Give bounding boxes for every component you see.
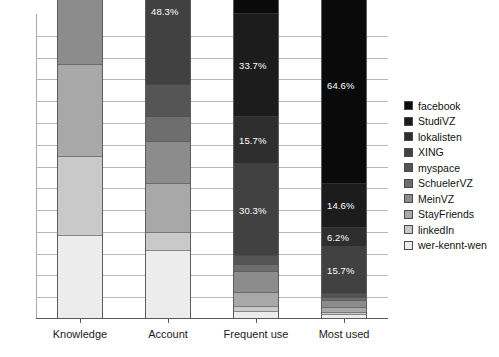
legend-item-schuelervz[interactable]: SchuelerVZ [404,176,499,192]
bar-segment[interactable] [58,0,102,65]
x-axis-tick [256,319,257,323]
legend-item-wer-kennt-wen[interactable]: wer-kennt-wen [404,238,499,254]
segment-value-label: 6.2% [327,231,349,242]
legend-swatch-icon [404,148,413,157]
bar-segment[interactable] [234,265,278,272]
bar-segment[interactable] [146,233,190,251]
bar-column-frequent-use[interactable]: 73.0%33.7%15.7%30.3% [233,0,279,319]
bar-segment[interactable] [146,85,190,117]
bar-segment[interactable] [234,272,278,293]
legend-item-meinvz[interactable]: MeinVZ [404,191,499,207]
bar-segment[interactable]: 6.2% [322,228,366,247]
x-axis-tick [168,319,169,323]
bar-segment[interactable]: 48.3% [146,0,190,85]
legend-swatch-icon [404,179,413,188]
bar-segment[interactable] [146,184,190,233]
legend-label: linkedIn [418,225,454,236]
legend-swatch-icon [404,194,413,203]
legend-label: facebook [418,101,461,112]
legend-swatch-icon [404,210,413,219]
legend-item-studivz[interactable]: StudiVZ [404,114,499,130]
legend-label: XING [418,147,444,158]
bar-segment[interactable]: 30.3% [234,164,278,256]
segment-value-label: 48.3% [151,6,178,17]
bar-segment[interactable] [58,157,102,236]
bar-segment[interactable] [322,301,366,308]
legend-label: StudiVZ [418,116,455,127]
legend: facebookStudiVZlokalistenXINGmyspaceSchu… [404,98,499,253]
bar-column-account[interactable]: 79.8%62.9%41.6%48.3% [145,0,191,319]
legend-label: SchuelerVZ [418,178,473,189]
segment-value-label: 15.7% [239,134,266,145]
segment-value-label: 15.7% [327,265,354,276]
bar-segment[interactable]: 15.7% [322,247,366,295]
bars-layer: 98.9%95.5%91.0%85.4%79.8%62.9%41.6%48.3%… [36,14,388,319]
legend-swatch-icon [404,241,413,250]
legend-item-myspace[interactable]: myspace [404,160,499,176]
x-axis-tick [80,319,81,323]
bar-segment[interactable]: 15.7% [234,117,278,165]
legend-label: MeinVZ [418,194,454,205]
bar-segment[interactable] [146,117,190,141]
bar-segment[interactable] [58,65,102,156]
legend-swatch-icon [404,132,413,141]
segment-value-label: 14.6% [327,200,354,211]
bar-segment[interactable] [58,236,102,318]
legend-swatch-icon [404,225,413,234]
legend-swatch-icon [404,163,413,172]
legend-item-stayfriends[interactable]: StayFriends [404,207,499,223]
legend-swatch-icon [404,117,413,126]
category-label-most-used: Most used [284,328,404,340]
legend-label: wer-kennt-wen [418,240,487,251]
x-axis-line [36,318,388,319]
bar-segment[interactable] [234,256,278,265]
x-axis-tick [344,319,345,323]
bar-segment[interactable]: 14.6% [322,184,366,228]
segment-value-label: 30.3% [239,204,266,215]
legend-swatch-icon [404,101,413,110]
bar-segment[interactable] [146,251,190,318]
legend-item-facebook[interactable]: facebook [404,98,499,114]
bar-segment[interactable] [234,293,278,307]
bar-segment[interactable]: 73.0% [234,0,278,14]
plot-area: 98.9%95.5%91.0%85.4%79.8%62.9%41.6%48.3%… [36,14,388,319]
segment-value-label: 33.7% [239,59,266,70]
legend-item-lokalisten[interactable]: lokalisten [404,129,499,145]
bar-column-knowledge[interactable]: 98.9%95.5%91.0%85.4% [57,0,103,319]
stacked-bar-chart: 98.9%95.5%91.0%85.4%79.8%62.9%41.6%48.3%… [0,0,499,357]
legend-label: myspace [418,163,460,174]
bar-column-most-used[interactable]: 64.6%14.6%6.2%15.7% [321,0,367,319]
bar-segment[interactable]: 33.7% [234,14,278,116]
segment-value-label: 64.6% [327,80,354,91]
bar-segment[interactable]: 64.6% [322,0,366,184]
legend-label: StayFriends [418,209,474,220]
legend-label: lokalisten [418,132,462,143]
y-axis-line [36,14,37,319]
legend-item-linkedin[interactable]: linkedIn [404,222,499,238]
bar-segment[interactable] [146,142,190,185]
legend-item-xing[interactable]: XING [404,145,499,161]
